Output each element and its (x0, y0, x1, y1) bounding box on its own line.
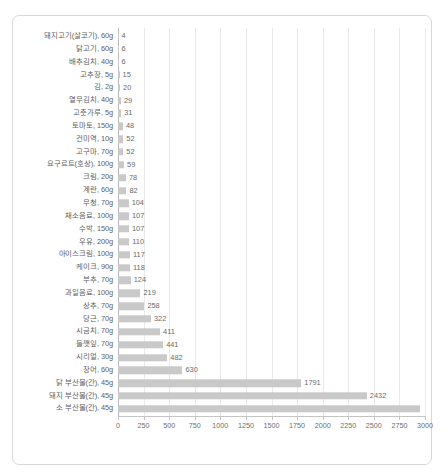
bar-value-label: 411 (160, 328, 175, 335)
bar-value-label: 31 (121, 110, 132, 117)
bar-track: 1791 (118, 377, 425, 390)
bar-track: 20 (118, 81, 425, 94)
bar-value-label: 1791 (301, 380, 320, 387)
chart-bar-row: 계란, 60g82 (13, 184, 433, 197)
bar[interactable] (118, 302, 144, 309)
category-label: 고춧가루, 5g (13, 107, 113, 120)
chart-bar-row: 우유, 200g110 (13, 236, 433, 249)
bar-track: 110 (118, 236, 425, 249)
category-label: 건미역, 10g (13, 133, 113, 146)
bar[interactable] (118, 277, 131, 284)
bar-track: 82 (118, 184, 425, 197)
category-label: 배추김치, 40g (13, 56, 113, 69)
bar[interactable] (118, 290, 140, 297)
x-tick-mark (246, 417, 247, 420)
bar[interactable] (118, 380, 301, 387)
chart-bar-row: 시금치, 70g411 (13, 325, 433, 338)
bar[interactable] (118, 200, 129, 207)
bar-track: 59 (118, 158, 425, 171)
bar-track: 4 (118, 30, 425, 43)
bar[interactable] (118, 187, 126, 194)
chart-bar-row: 토마토, 150g48 (13, 120, 433, 133)
x-tick-mark (169, 417, 170, 420)
bar-track: 124 (118, 274, 425, 287)
x-tick-label: 750 (189, 421, 201, 430)
category-label: 돼지고기(살코기), 60g (13, 30, 113, 43)
bar-value-label: 107 (129, 225, 144, 232)
bar[interactable] (118, 405, 420, 412)
category-label: 계란, 60g (13, 184, 113, 197)
bar-value-label: 118 (130, 264, 145, 271)
category-label: 수박, 150g (13, 223, 113, 236)
category-label: 소 부산물(간), 45g (13, 402, 113, 415)
bar-track: 258 (118, 300, 425, 313)
bar-track: 29 (118, 94, 425, 107)
bar[interactable] (118, 354, 167, 361)
bar[interactable] (118, 264, 130, 271)
x-tick-label: 1000 (212, 421, 228, 430)
chart-bar-row: 무청, 70g104 (13, 197, 433, 210)
chart-bar-row: 크림, 20g78 (13, 171, 433, 184)
category-label: 과일음료, 100g (13, 287, 113, 300)
category-label: 무청, 70g (13, 197, 113, 210)
chart-bar-row: 장어, 60g630 (13, 364, 433, 377)
chart-bar-row: 수박, 150g107 (13, 223, 433, 236)
bar[interactable] (118, 328, 160, 335)
bar-value-label: 4 (119, 33, 126, 40)
category-label: 아이스크림, 100g (13, 248, 113, 261)
chart-bar-row: 당근, 70g322 (13, 313, 433, 326)
bar-track: 78 (118, 171, 425, 184)
x-tick-label: 1250 (238, 421, 254, 430)
bar-value-label: 48 (123, 123, 134, 130)
chart-bar-row: 고구마, 70g52 (13, 146, 433, 159)
category-label: 부추, 70g (13, 274, 113, 287)
chart-bar-row: 부추, 70g124 (13, 274, 433, 287)
bar[interactable] (118, 315, 151, 322)
category-label: 요구르트(호상), 100g (13, 158, 113, 171)
bar-track: 630 (118, 364, 425, 377)
bar[interactable] (118, 225, 129, 232)
chart-bar-row: 시리얼, 30g482 (13, 351, 433, 364)
bar-track: 482 (118, 351, 425, 364)
category-label: 돼지 부산물(간), 45g (13, 390, 113, 403)
x-tick-mark (348, 417, 349, 420)
bar-track: 441 (118, 338, 425, 351)
bar-value-label: 322 (151, 315, 166, 322)
bar[interactable] (118, 174, 126, 181)
bar-track: 48 (118, 120, 425, 133)
category-label: 케이크, 90g (13, 261, 113, 274)
x-tick-label: 500 (163, 421, 175, 430)
chart-bar-row: 고춧가루, 5g31 (13, 107, 433, 120)
x-tick-mark (220, 417, 221, 420)
bar-value-label: 107 (129, 213, 144, 220)
chart-bar-row: 케이크, 90g118 (13, 261, 433, 274)
category-label: 크림, 20g (13, 171, 113, 184)
bar-track: 52 (118, 133, 425, 146)
x-tick-mark (374, 417, 375, 420)
x-tick-label: 2250 (340, 421, 356, 430)
category-label: 시리얼, 30g (13, 351, 113, 364)
bar-track: 118 (118, 261, 425, 274)
x-tick-label: 2500 (366, 421, 382, 430)
x-tick-mark (195, 417, 196, 420)
x-tick-label: 3000 (417, 421, 433, 430)
bar[interactable] (118, 392, 367, 399)
bar[interactable] (118, 251, 130, 258)
x-tick-mark (144, 417, 145, 420)
bar[interactable] (118, 341, 163, 348)
chart-bar-row: 닭 부산물(간), 45g1791 (13, 377, 433, 390)
x-tick-label: 2750 (391, 421, 407, 430)
bar[interactable] (118, 367, 182, 374)
bar[interactable] (118, 213, 129, 220)
x-tick-mark (297, 417, 298, 420)
bar-value-label: 59 (124, 161, 135, 168)
category-label: 김, 2g (13, 81, 113, 94)
chart-bar-row: 건미역, 10g52 (13, 133, 433, 146)
bar[interactable] (118, 238, 129, 245)
bar-value-label: 20 (120, 84, 131, 91)
category-label: 시금치, 70g (13, 325, 113, 338)
bar-track (118, 402, 425, 415)
bar-value-label: 78 (126, 174, 137, 181)
bar-track: 104 (118, 197, 425, 210)
bar-track: 107 (118, 223, 425, 236)
